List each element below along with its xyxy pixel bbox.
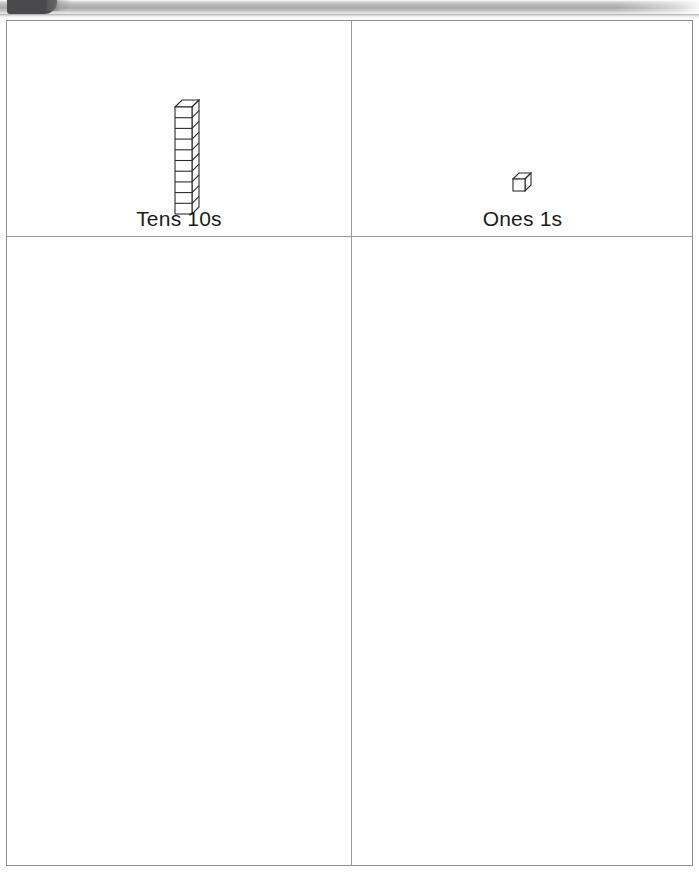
tens-column-cell[interactable]: Tens 10s	[7, 21, 351, 236]
column-divider	[351, 21, 352, 865]
place-value-table: Tens 10s Ones 1s	[6, 20, 693, 866]
tens-answer-cell[interactable]	[7, 237, 351, 865]
scan-page-top-edge	[0, 0, 699, 20]
unit-cube-icon	[511, 171, 537, 197]
tens-rod-icon	[169, 76, 209, 221]
tens-blocks-area[interactable]	[7, 21, 351, 206]
tens-rod-block[interactable]	[169, 76, 209, 221]
place-value-header-row: Tens 10s Ones 1s	[7, 21, 692, 237]
scan-edge-shadow	[0, 14, 699, 19]
tens-column-label: Tens 10s	[7, 206, 351, 232]
scan-band-fade	[0, 0, 699, 15]
ones-column-cell[interactable]: Ones 1s	[352, 21, 693, 236]
ones-column-label: Ones 1s	[352, 206, 693, 232]
ones-answer-cell[interactable]	[352, 237, 693, 865]
ones-unit-cube-block[interactable]	[511, 171, 537, 197]
ones-blocks-area[interactable]	[352, 21, 693, 206]
place-value-work-row	[7, 237, 692, 865]
